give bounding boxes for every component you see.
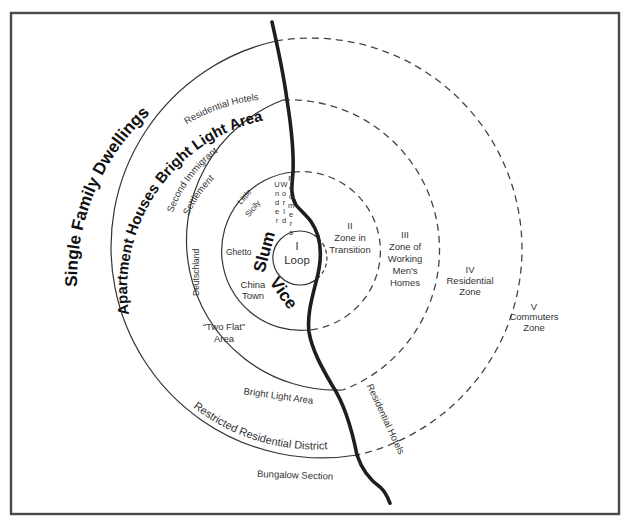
letter: e xyxy=(289,210,293,219)
letter: U xyxy=(274,180,279,189)
letter: o xyxy=(289,183,293,192)
zone-iii-name-4: Homes xyxy=(390,277,420,288)
zone-iii-numeral: III xyxy=(401,229,409,240)
label-ghetto: Ghetto xyxy=(226,247,252,257)
letter: R xyxy=(288,174,294,183)
diagram-frame xyxy=(11,13,619,514)
zone-iii-name-2: Working xyxy=(388,253,423,264)
letter: d xyxy=(282,216,286,225)
zone-i-name: Loop xyxy=(284,254,310,266)
label-two-flat: “Two Flat” xyxy=(203,321,245,332)
label-deutschland: Deutschland xyxy=(191,248,201,296)
zone-ii-name-1: Zone in xyxy=(334,232,366,243)
label-two-flat-area: Area xyxy=(214,333,235,344)
concentric-zone-diagram: I Loop II Zone in Transition III Zone of… xyxy=(0,0,630,522)
letter: s xyxy=(289,228,293,237)
letter: d xyxy=(275,198,279,207)
zone-iv-name-1: Residential xyxy=(447,275,494,286)
zone-ii-name-2: Transition xyxy=(329,244,370,255)
letter: o xyxy=(289,192,293,201)
letter: e xyxy=(275,207,279,216)
zone-iv-name-2: Zone xyxy=(459,286,481,297)
zone-v-name-1: Commuters xyxy=(509,311,558,322)
zone-i-numeral: I xyxy=(295,240,298,252)
letter: o xyxy=(282,189,286,198)
letter: m xyxy=(288,201,294,210)
label-china: China xyxy=(241,279,267,290)
zone-iii-name-1: Zone of xyxy=(389,241,422,252)
zone-v-name-2: Zone xyxy=(523,322,545,333)
zone-iv-numeral: IV xyxy=(466,264,476,275)
zone-ii-numeral: II xyxy=(347,220,352,231)
letter: W xyxy=(280,180,288,189)
zone-iii-name-3: Men's xyxy=(392,265,417,276)
letter: n xyxy=(275,189,279,198)
label-town: Town xyxy=(242,290,264,301)
